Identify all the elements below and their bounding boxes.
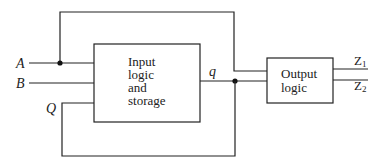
input-block-line-4: storage [128,93,166,108]
output-block-line-2: logic [281,80,307,95]
internal-q-label: q [209,64,216,79]
input-a-label: A [15,56,25,71]
output-block-line-1: Output [281,66,318,81]
input-b-label: B [16,76,25,91]
feedback-q-label: Q [46,101,56,116]
junction-dot-a [57,60,62,65]
output-z1-label: Z1 [354,53,366,69]
sequential-circuit-diagram: A B Q Input logic and storage q Output l… [0,0,382,163]
